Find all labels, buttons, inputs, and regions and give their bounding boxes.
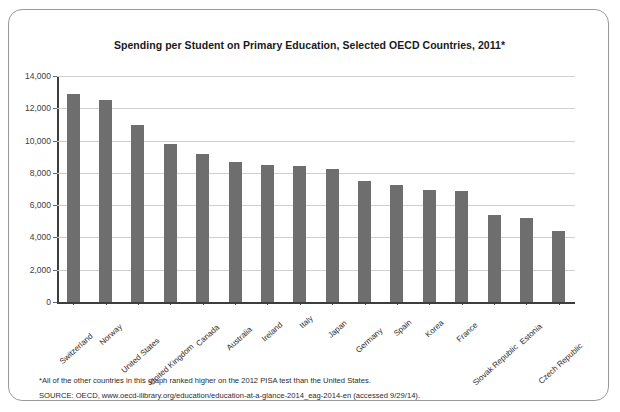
x-axis-tick-label: Australia [225,325,254,353]
x-axis-tick-label: Germany [354,326,384,355]
y-axis-labels: 02,0004,0006,0008,00010,00012,00014,000 [9,76,51,302]
bar[interactable] [99,100,112,302]
y-axis-tick-label: 0 [46,297,51,307]
bar[interactable] [488,215,501,302]
x-axis-label-wrapper: Japan [343,304,365,325]
x-axis-label-wrapper: Korea [440,304,462,325]
y-axis-tick-label: 12,000 [25,103,51,113]
y-axis-tick-label: 4,000 [30,232,51,242]
x-axis-tick-label: Czech Republic [537,341,585,385]
bar[interactable] [164,144,177,302]
chart-card: Spending per Student on Primary Educatio… [8,9,609,401]
x-axis-tick-label: United States [120,336,162,375]
x-axis-tick-label: Ireland [261,320,285,343]
x-axis-label-wrapper: France [473,304,498,327]
y-axis-tick-label: 2,000 [30,265,51,275]
gridline [57,76,575,77]
x-axis-tick-label: Switzerland [58,332,95,366]
x-axis-tick-label: France [455,321,480,344]
footnote-text: *All of the other countries in this grap… [39,376,371,385]
x-axis-labels: SwitzerlandNorwayUnited StatesUnited Kin… [57,304,575,374]
x-axis-tick-label: Korea [424,318,446,339]
bar[interactable] [261,165,274,302]
page-title: Spending per Student on Primary Educatio… [9,39,610,51]
bar[interactable] [455,191,468,302]
gridline [57,108,575,109]
bar[interactable] [552,231,565,302]
bar[interactable] [196,154,209,302]
bar[interactable] [390,185,403,302]
bar[interactable] [293,166,306,302]
bar[interactable] [229,162,242,302]
x-axis-tick-label: Slovak Republic [471,342,520,387]
bar[interactable] [358,181,371,302]
bar[interactable] [520,218,533,302]
bar[interactable] [423,190,436,302]
y-axis-tick-label: 14,000 [25,71,51,81]
bar[interactable] [131,125,144,302]
x-axis-label-wrapper: Spain [407,304,428,324]
x-axis-tick-label: Italy [298,314,315,331]
x-axis-label-wrapper: United States [155,304,197,343]
y-axis-tick-label: 8,000 [30,168,51,178]
y-axis-tick-label: 10,000 [25,136,51,146]
source-text: SOURCE: OECD, www.oecd-ilibrary.org/educ… [39,391,420,400]
y-axis-tick-label: 6,000 [30,200,51,210]
x-axis-tick-label: Japan [327,319,349,340]
bar[interactable] [326,169,339,302]
plot-area [57,76,575,302]
x-axis-label-wrapper: Czech Republic [578,304,620,348]
x-axis-label-wrapper: Italy [309,304,326,321]
bar[interactable] [67,94,80,302]
